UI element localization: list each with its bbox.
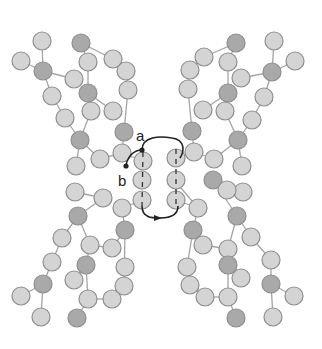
residue-light [232,69,250,87]
residue-light [67,157,85,175]
residue-light [216,102,234,120]
residue-light [196,288,214,306]
residue-light [285,287,303,305]
residue-light [119,81,137,99]
residue-light [66,183,84,201]
point-a-marker [139,147,144,152]
residue-light [103,239,121,257]
residue-light [243,111,261,129]
residue-light [189,199,207,217]
residue-light [195,48,213,66]
residue-dark [183,122,201,140]
residue-light [56,109,74,127]
residue-light [262,251,280,269]
residue-light [115,277,133,295]
residue-dark [34,275,52,293]
residue-light [43,87,61,105]
residue-light [194,236,212,254]
peptide-dimer-diagram: a b [0,0,322,349]
residues [12,32,304,327]
residue-light [79,53,97,71]
residue-light [286,52,304,70]
residue-light [242,228,260,246]
residue-dark [34,62,52,80]
residue-light [219,288,237,306]
residue-light [81,236,99,254]
residue-dark [263,63,281,81]
residue-light [265,32,283,50]
residue-light [264,308,282,326]
residue-light [116,258,134,276]
residue-light [219,240,237,258]
label-b: b [118,172,126,189]
backbone-bonds [21,41,295,318]
residue-light [232,269,250,287]
residue-light [82,102,100,120]
residue-light [65,70,83,88]
bottom-arrow-head [154,215,162,221]
residue-light [32,308,50,326]
label-a: a [136,127,145,144]
residue-dark [116,221,134,239]
residue-dark [229,131,247,149]
residue-light [65,271,83,289]
residue-light [53,229,71,247]
residue-dark [228,207,246,225]
residue-light [181,276,199,294]
residue-light [178,258,196,276]
residue-light [205,150,223,168]
residue-light [185,143,203,161]
residue-light [94,189,112,207]
residue-light [181,61,199,79]
residue-light [104,102,122,120]
residue-light [233,157,251,175]
residue-dark [72,34,90,52]
residue-light [218,181,236,199]
point-b-marker [123,163,128,168]
residue-light [117,62,135,80]
residue-dark [262,275,280,293]
residue-dark [115,123,133,141]
residue-light [255,88,273,106]
residue-light [194,101,212,119]
residue-light [43,253,61,271]
residue-light [234,183,252,201]
residue-dark [219,84,237,102]
residue-light [12,52,30,70]
residue-dark [69,207,87,225]
central-helical-hairpin [133,149,185,209]
residue-light [91,150,109,168]
residue-light [79,290,97,308]
residue-light [33,32,51,50]
residue-dark [68,309,86,327]
residue-dark [79,84,97,102]
residue-light [12,287,30,305]
residue-dark [77,256,95,274]
residue-dark [71,131,89,149]
residue-dark [227,34,245,52]
residue-dark [227,309,245,327]
residue-light [219,53,237,71]
residue-light [113,199,131,217]
residue-light [179,80,197,98]
